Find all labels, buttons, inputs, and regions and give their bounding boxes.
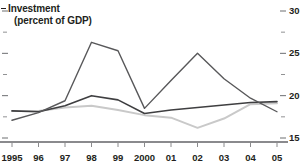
x-tick-label: 2000 (134, 152, 155, 163)
x-tick-label: 01 (166, 152, 177, 163)
y-tick-label: 15 (289, 132, 300, 143)
y-tick-label: 20 (289, 90, 300, 101)
x-tick-label: 96 (33, 152, 44, 163)
investment-chart: Investment (percent of GDP) 30252015 199… (0, 0, 305, 168)
x-tick-label: 04 (245, 152, 256, 163)
x-tick-label: 1995 (1, 152, 22, 163)
x-tick-label: 05 (272, 152, 283, 163)
y-tick-label: 25 (289, 47, 300, 58)
x-tick-label: 97 (60, 152, 71, 163)
plot-area (0, 0, 305, 168)
x-tick-label: 02 (192, 152, 203, 163)
y-tick-label: 30 (289, 5, 300, 16)
x-tick-label: 98 (86, 152, 97, 163)
x-tick-label: 03 (219, 152, 230, 163)
x-tick-label: 99 (113, 152, 124, 163)
